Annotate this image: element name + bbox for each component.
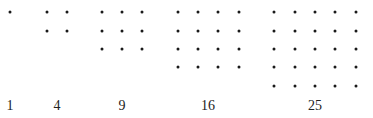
dot — [197, 66, 200, 69]
dot — [334, 30, 337, 33]
dot — [294, 11, 297, 14]
dot — [314, 48, 317, 51]
label-1: 1 — [7, 97, 14, 115]
dot — [9, 11, 12, 14]
dot — [66, 30, 69, 33]
dot — [46, 11, 49, 14]
dot — [101, 48, 104, 51]
dot — [121, 30, 124, 33]
dot — [238, 48, 241, 51]
dot — [217, 30, 220, 33]
dot — [334, 85, 337, 88]
dot — [141, 11, 144, 14]
dot — [238, 11, 241, 14]
dot — [314, 30, 317, 33]
dot — [334, 48, 337, 51]
label-25: 25 — [308, 97, 322, 115]
dot — [101, 30, 104, 33]
label-4: 4 — [54, 97, 61, 115]
dot — [273, 30, 276, 33]
dot — [294, 85, 297, 88]
dot — [197, 48, 200, 51]
dot — [314, 85, 317, 88]
dot — [355, 30, 358, 33]
dot — [217, 48, 220, 51]
label-16: 16 — [201, 97, 215, 115]
dot — [273, 48, 276, 51]
dot — [217, 66, 220, 69]
dot — [46, 30, 49, 33]
dot — [177, 66, 180, 69]
dot — [177, 30, 180, 33]
dot — [273, 66, 276, 69]
label-9: 9 — [119, 97, 126, 115]
dot — [334, 66, 337, 69]
dot — [177, 48, 180, 51]
dot — [273, 85, 276, 88]
dot — [355, 11, 358, 14]
dot — [314, 11, 317, 14]
dot — [177, 11, 180, 14]
dot — [273, 11, 276, 14]
dot — [294, 66, 297, 69]
dot — [141, 30, 144, 33]
dot — [334, 11, 337, 14]
dot — [355, 85, 358, 88]
dot — [238, 66, 241, 69]
dot — [294, 48, 297, 51]
dot — [355, 66, 358, 69]
dot — [355, 48, 358, 51]
dot — [197, 30, 200, 33]
dot — [121, 11, 124, 14]
dot — [197, 11, 200, 14]
dot — [66, 11, 69, 14]
dot — [217, 11, 220, 14]
dot — [121, 48, 124, 51]
dot — [294, 30, 297, 33]
dot — [141, 48, 144, 51]
dot — [101, 11, 104, 14]
dot — [314, 66, 317, 69]
dot — [238, 30, 241, 33]
